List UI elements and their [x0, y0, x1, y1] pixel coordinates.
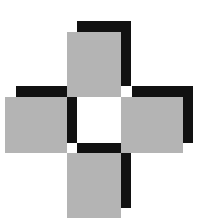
cross-diagram [0, 0, 212, 222]
upper-right-gap [121, 86, 132, 97]
left-tile [5, 97, 67, 153]
lower-left-gap [67, 143, 77, 153]
top-tile [67, 32, 121, 97]
left-tile-inner-shadow-edge [67, 97, 77, 143]
center-empty-area [77, 97, 121, 143]
bottom-tile [67, 153, 121, 218]
bottom-tile-inner-shadow-edge [77, 143, 121, 153]
right-tile [121, 97, 183, 153]
